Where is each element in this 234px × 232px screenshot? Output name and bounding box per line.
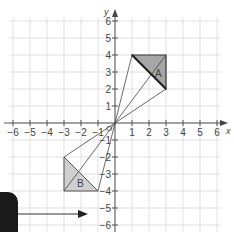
dark-overlay-panel[interactable] bbox=[0, 192, 18, 232]
y-axis-label: y bbox=[103, 7, 109, 17]
x-tick-label: 6 bbox=[214, 127, 220, 138]
x-tick-label: −3 bbox=[58, 127, 70, 138]
x-tick-label: −4 bbox=[41, 127, 53, 138]
coordinate-grid-svg: −6−5−4−3−2−1123456654321−1−2−3−4−5−6 x y… bbox=[0, 0, 234, 232]
triangle-a-label: A bbox=[155, 68, 162, 79]
x-tick-label: 4 bbox=[180, 127, 186, 138]
y-tick-label: 2 bbox=[105, 84, 111, 95]
coordinate-diagram: −6−5−4−3−2−1123456654321−1−2−3−4−5−6 x y… bbox=[0, 0, 234, 232]
y-tick-label: 6 bbox=[105, 16, 111, 27]
x-tick-label: −6 bbox=[7, 127, 19, 138]
triangle-b-label: B bbox=[77, 178, 84, 189]
y-tick-label: −6 bbox=[100, 220, 112, 231]
x-tick-label: 1 bbox=[129, 127, 135, 138]
x-axis-label: x bbox=[225, 126, 231, 136]
x-tick-label: −5 bbox=[24, 127, 36, 138]
y-tick-label: −5 bbox=[100, 203, 112, 214]
y-tick-label: 5 bbox=[105, 33, 111, 44]
x-tick-label: −2 bbox=[75, 127, 87, 138]
y-tick-label: 4 bbox=[105, 50, 111, 61]
y-tick-label: 1 bbox=[105, 101, 111, 112]
y-axis-arrow-icon bbox=[112, 9, 118, 17]
arrow-right-icon bbox=[78, 210, 88, 218]
y-tick-label: 3 bbox=[105, 67, 111, 78]
y-tick-label: −4 bbox=[100, 186, 112, 197]
x-tick-label: 3 bbox=[163, 127, 169, 138]
x-tick-label: 5 bbox=[197, 127, 203, 138]
x-tick-label: 2 bbox=[146, 127, 152, 138]
